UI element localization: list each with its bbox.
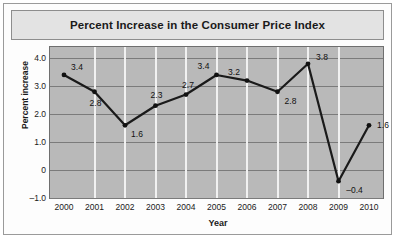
x-tick-label: 2009 bbox=[329, 202, 348, 212]
x-tick-label: 2006 bbox=[238, 202, 257, 212]
data-point-marker bbox=[92, 89, 97, 94]
x-tick-label: 2007 bbox=[268, 202, 287, 212]
data-point-label: 3.8 bbox=[316, 52, 328, 62]
data-point-label: –0.4 bbox=[346, 185, 363, 195]
series-polyline bbox=[64, 64, 369, 181]
data-point-label: 3.2 bbox=[228, 67, 240, 77]
x-tick-label: 2003 bbox=[146, 202, 165, 212]
y-tick-label: 1.0 bbox=[34, 137, 46, 147]
data-point-label: 2.3 bbox=[151, 90, 163, 100]
data-point-label: 2.8 bbox=[90, 98, 102, 108]
x-tick-label: 2005 bbox=[207, 202, 226, 212]
data-point-marker bbox=[62, 73, 67, 78]
data-point-marker bbox=[214, 73, 219, 78]
x-tick-label: 2002 bbox=[116, 202, 135, 212]
x-tick-label: 2010 bbox=[360, 202, 379, 212]
data-point-label: 3.4 bbox=[198, 61, 210, 71]
chart-card: Percent Increase in the Consumer Price I… bbox=[3, 3, 392, 235]
cpi-line-series bbox=[50, 47, 383, 198]
data-point-marker bbox=[306, 61, 311, 66]
data-point-marker bbox=[367, 123, 372, 128]
y-tick-label: 2.0 bbox=[34, 109, 46, 119]
chart-title-box: Percent Increase in the Consumer Price I… bbox=[11, 10, 384, 40]
data-point-marker bbox=[123, 123, 128, 128]
data-point-label: 1.6 bbox=[131, 129, 143, 139]
y-tick-label: 4.0 bbox=[34, 53, 46, 63]
data-point-label: 3.4 bbox=[71, 62, 83, 72]
data-point-label: 1.6 bbox=[377, 120, 389, 130]
page-title: Percent Increase in the Consumer Price I… bbox=[70, 19, 325, 31]
data-point-marker bbox=[245, 78, 250, 83]
x-tick-label: 2004 bbox=[177, 202, 196, 212]
data-point-marker bbox=[153, 103, 158, 108]
plot-area: 4.03.02.01.00–1.0 2000200120022003200420… bbox=[49, 46, 384, 199]
y-axis-label: Percent increase bbox=[20, 43, 30, 147]
x-tick-label: 2001 bbox=[85, 202, 104, 212]
data-point-marker bbox=[275, 89, 280, 94]
data-point-label: 2.8 bbox=[285, 96, 297, 106]
y-tick-label: 0 bbox=[41, 165, 46, 175]
y-tick-label: 3.0 bbox=[34, 81, 46, 91]
gridline-horizontal bbox=[50, 198, 383, 199]
data-point-marker bbox=[184, 92, 189, 97]
data-point-marker bbox=[336, 179, 341, 184]
series-markers bbox=[62, 61, 372, 183]
x-tick-label: 2000 bbox=[55, 202, 74, 212]
x-tick-label: 2008 bbox=[299, 202, 318, 212]
y-tick-label: –1.0 bbox=[29, 193, 46, 203]
x-axis-label: Year bbox=[52, 218, 384, 228]
data-point-label: 2.7 bbox=[182, 80, 194, 90]
